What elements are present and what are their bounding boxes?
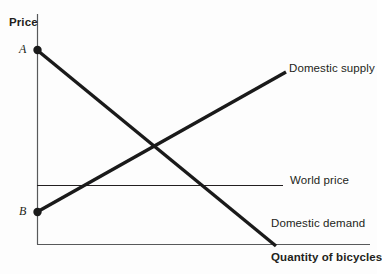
x-axis-title: Quantity of bicycles	[271, 252, 382, 264]
y-axis-title: Price	[9, 17, 38, 29]
world-price-label: World price	[290, 175, 349, 187]
domestic-supply-curve	[37, 72, 286, 212]
point-b-marker	[33, 208, 41, 216]
domestic-demand-label: Domestic demand	[271, 218, 365, 230]
domestic-supply-label: Domestic supply	[289, 63, 375, 75]
domestic-demand-curve	[37, 50, 276, 246]
point-a-marker	[33, 46, 41, 54]
point-a-label: A	[19, 43, 26, 55]
point-b-label: B	[19, 205, 26, 217]
